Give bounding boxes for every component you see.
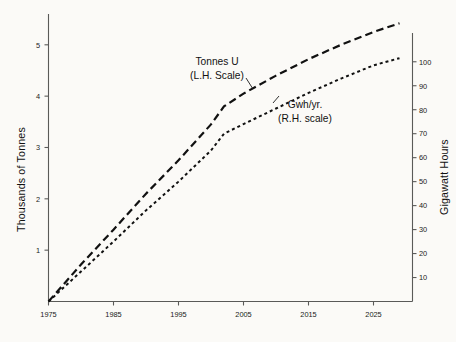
annotation-tonnes-u-leader — [246, 78, 253, 89]
x-tick-label: 2005 — [235, 310, 251, 319]
right-tick-label: 40 — [419, 201, 427, 210]
annotation-gwh-line2: (R.H. scale) — [278, 113, 332, 124]
left-tick-label: 5 — [36, 41, 40, 50]
right-tick-label: 80 — [419, 106, 427, 115]
right-tick-label: 100 — [419, 58, 431, 67]
annotation-gwh-line1: Gwh/yr. — [288, 99, 323, 110]
x-axis-ticks: 197519851995200520152025 — [40, 302, 381, 320]
right-tick-label: 10 — [419, 273, 427, 282]
right-tick-label: 20 — [419, 249, 427, 258]
right-tick-label: 90 — [419, 82, 427, 91]
right-tick-label: 30 — [419, 225, 427, 234]
dual-axis-line-chart: 12345 102030405060708090100 197519851995… — [0, 0, 456, 342]
left-axis-title: Thousands of Tonnes — [15, 127, 27, 232]
annotation-gwh-per-yr: Gwh/yr. (R.H. scale) — [273, 96, 332, 124]
annotation-tonnes-u-line2: (L.H. Scale) — [190, 70, 244, 81]
chart-svg: 12345 102030405060708090100 197519851995… — [0, 0, 456, 342]
annotation-tonnes-u: Tonnes U (L.H. Scale) — [190, 56, 253, 89]
annotation-gwh-leader — [273, 96, 279, 103]
series-gwh-per-yr-line — [49, 58, 400, 301]
annotation-tonnes-u-line1: Tonnes U — [195, 56, 238, 67]
x-tick-label: 2025 — [365, 310, 381, 319]
right-axis-ticks: 102030405060708090100 — [413, 58, 432, 283]
right-tick-label: 50 — [419, 177, 427, 186]
left-tick-label: 3 — [36, 143, 40, 152]
x-tick-label: 2015 — [300, 310, 316, 319]
x-tick-label: 1995 — [170, 310, 186, 319]
right-tick-label: 70 — [419, 129, 427, 138]
right-axis-title: Gigawatt Hours — [438, 139, 450, 215]
left-tick-label: 2 — [36, 195, 40, 204]
left-tick-label: 1 — [36, 246, 40, 255]
right-tick-label: 60 — [419, 153, 427, 162]
left-axis-ticks: 12345 — [36, 41, 49, 255]
left-tick-label: 4 — [36, 92, 40, 101]
x-tick-label: 1985 — [105, 310, 121, 319]
x-tick-label: 1975 — [40, 310, 56, 319]
